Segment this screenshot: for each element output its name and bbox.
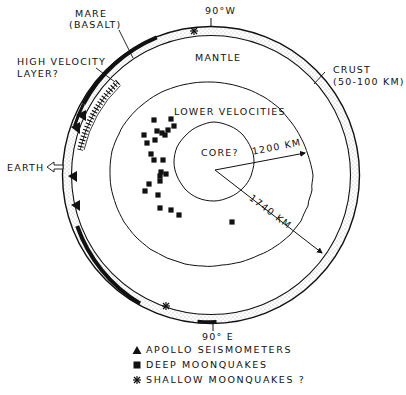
deep-moonquake-marker <box>141 132 146 137</box>
deep-moonquake-marker <box>168 116 173 121</box>
deep-moonquake-marker <box>155 192 160 197</box>
high-velocity-label-2: LAYER? <box>17 68 59 79</box>
asterisk-icon <box>190 27 198 35</box>
mantle-label: MANTLE <box>195 52 241 63</box>
deep-moonquake-marker <box>168 207 173 212</box>
core-label: CORE? <box>201 147 239 158</box>
deep-moonquake-marker <box>151 157 156 162</box>
deep-moonquake-marker <box>165 127 170 132</box>
deep-moonquake-marker <box>144 140 149 145</box>
legend-label: DEEP MOONQUAKES <box>146 359 268 370</box>
core-boundary <box>174 122 254 201</box>
deep-moonquake-marker <box>146 181 151 186</box>
deep-moonquake-marker <box>176 212 181 217</box>
legend: APOLLO SEISMOMETERS DEEP MOONQUAKES SHAL… <box>128 342 305 387</box>
deep-moonquake-marker <box>142 188 147 193</box>
crust-label: CRUST <box>333 64 371 75</box>
deep-moonquake-marker <box>171 123 176 128</box>
earth-label: EARTH <box>7 162 44 173</box>
deep-moonquake-marker <box>151 117 156 122</box>
mare-basalt-arcs <box>75 37 217 322</box>
deep-moonquake-marker <box>163 171 168 176</box>
basalt-label: (BASALT) <box>69 19 122 30</box>
west-label: 90°W <box>205 5 236 16</box>
deep-moonquake-marker <box>157 205 162 210</box>
earth-arrow-icon <box>47 162 63 172</box>
asterisk-icon <box>128 375 146 385</box>
asterisk-icon <box>162 302 170 310</box>
deep-moonquake-marker <box>157 178 162 183</box>
legend-item-shallow-moonquakes: SHALLOW MOONQUAKES ? <box>128 372 305 387</box>
legend-label: SHALLOW MOONQUAKES ? <box>146 374 305 385</box>
deep-moonquake-marker <box>162 132 167 137</box>
legend-item-seismometers: APOLLO SEISMOMETERS <box>128 342 305 357</box>
legend-label: APOLLO SEISMOMETERS <box>146 344 292 355</box>
square-icon <box>128 360 146 370</box>
deep-moonquake-marker <box>157 173 162 178</box>
high-velocity-layer <box>80 82 121 150</box>
shallow-moonquakes <box>162 27 198 310</box>
mare-label: MARE <box>75 8 107 19</box>
deep-moonquake-marker <box>152 137 157 142</box>
east-label: 90° E <box>202 331 234 342</box>
deep-moonquake-marker <box>160 157 165 162</box>
deep-moonquake-marker <box>148 151 153 156</box>
triangle-icon <box>128 345 146 355</box>
deep-moonquake-marker <box>229 219 234 224</box>
deep-moonquake-marker <box>154 128 159 133</box>
crust-thickness-label: (50-100 KM) <box>333 76 405 87</box>
lower-velocities-label: LOWER VELOCITIES <box>174 106 286 117</box>
high-velocity-label: HIGH VELOCITY <box>17 56 106 67</box>
legend-item-deep-moonquakes: DEEP MOONQUAKES <box>128 357 305 372</box>
